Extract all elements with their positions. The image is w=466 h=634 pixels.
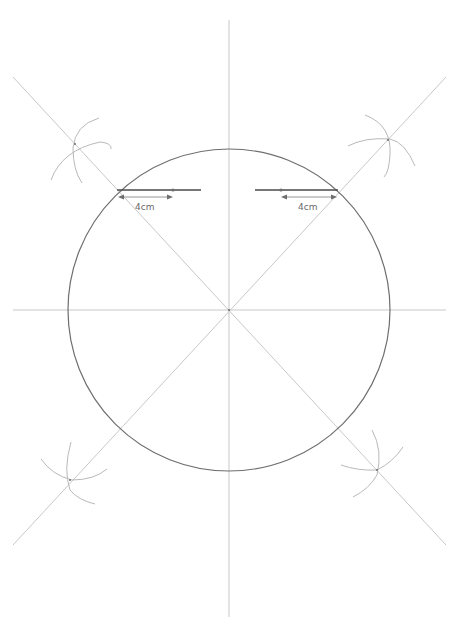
left-chord-point xyxy=(171,188,174,191)
arc-pair-bottom-left xyxy=(41,442,107,504)
right-arrowhead-start xyxy=(281,195,287,200)
right-chord-measurement: 4cm xyxy=(255,188,338,212)
right-measurement-label: 4cm xyxy=(298,202,317,212)
left-measurement-label: 4cm xyxy=(135,202,154,212)
right-chord-point xyxy=(279,188,282,191)
construction-diagram: 4cm 4cm xyxy=(0,0,466,634)
center-point xyxy=(228,309,230,311)
left-arrowhead-end xyxy=(167,195,173,200)
left-arrowhead-start xyxy=(118,195,124,200)
arc-pair-bottom-right xyxy=(341,430,403,497)
left-chord-measurement: 4cm xyxy=(117,188,201,212)
